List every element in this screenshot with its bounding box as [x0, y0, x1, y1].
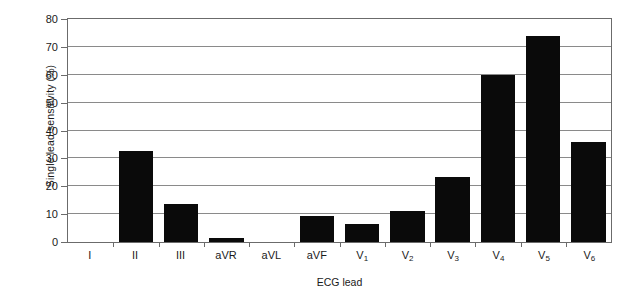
y-tick-mark — [61, 242, 68, 243]
y-tick-mark — [61, 186, 68, 187]
x-tick-mark — [340, 242, 341, 247]
x-tick-mark — [475, 242, 476, 247]
x-tick-mark — [113, 242, 114, 247]
bar-slot — [430, 19, 475, 242]
y-tick-label: 40 — [46, 125, 58, 137]
bar-V6 — [571, 142, 605, 242]
bar-slot — [249, 19, 294, 242]
bar-slot — [385, 19, 430, 242]
x-tick-mark — [159, 242, 160, 247]
bar-aVR — [209, 238, 243, 242]
x-tick-label-aVF: aVF — [294, 249, 339, 261]
x-tick-label-V1: V1 — [340, 249, 385, 261]
bar-slot — [113, 19, 158, 242]
x-axis-title: ECG lead — [67, 276, 612, 288]
x-tick-label-III: III — [158, 249, 203, 261]
y-tick-mark — [61, 19, 68, 20]
bar-slot — [68, 19, 113, 242]
x-tick-label-aVR: aVR — [203, 249, 248, 261]
bar-slot — [159, 19, 204, 242]
x-tick-mark — [566, 242, 567, 247]
x-axis-tick-labels: IIIIIIaVRaVLaVFV1V2V3V4V5V6 — [67, 249, 612, 261]
bar-chart-figure: Single lead sensitivity (%) 010203040506… — [0, 0, 625, 299]
x-tick-label-V5: V5 — [521, 249, 566, 261]
y-tick-mark — [61, 103, 68, 104]
y-tick-label: 60 — [46, 69, 58, 81]
y-tick-mark — [61, 131, 68, 132]
x-tick-mark — [204, 242, 205, 247]
y-tick-mark — [61, 75, 68, 76]
y-tick-label: 80 — [46, 13, 58, 25]
y-tick-label: 20 — [46, 180, 58, 192]
bar-V1 — [345, 224, 379, 242]
bar-slot — [294, 19, 339, 242]
y-tick-label: 0 — [52, 236, 58, 248]
x-tick-label-V4: V4 — [476, 249, 521, 261]
x-tick-label-aVL: aVL — [249, 249, 294, 261]
bar-slot — [566, 19, 611, 242]
plot-area: 01020304050607080 — [67, 18, 612, 243]
x-tick-label-II: II — [112, 249, 157, 261]
x-tick-mark — [521, 242, 522, 247]
y-tick-mark — [61, 214, 68, 215]
y-tick-label: 10 — [46, 208, 58, 220]
y-tick-label: 30 — [46, 152, 58, 164]
x-tick-label-V3: V3 — [430, 249, 475, 261]
x-tick-mark — [430, 242, 431, 247]
y-tick-mark — [61, 158, 68, 159]
x-tick-label-V2: V2 — [385, 249, 430, 261]
x-tick-mark — [385, 242, 386, 247]
y-tick-label: 70 — [46, 41, 58, 53]
bar-slot — [521, 19, 566, 242]
bar-III — [164, 204, 198, 242]
bar-slot — [340, 19, 385, 242]
bar-II — [119, 151, 153, 242]
y-tick-label: 50 — [46, 97, 58, 109]
x-tick-label-V6: V6 — [567, 249, 612, 261]
bar-V5 — [526, 36, 560, 242]
bar-slot — [204, 19, 249, 242]
bar-V4 — [481, 75, 515, 242]
bar-series — [68, 19, 611, 242]
x-tick-mark — [249, 242, 250, 247]
x-tick-label-I: I — [67, 249, 112, 261]
bar-V3 — [435, 177, 469, 243]
x-tick-mark — [294, 242, 295, 247]
y-tick-mark — [61, 47, 68, 48]
bar-aVF — [300, 216, 334, 242]
bar-V2 — [390, 211, 424, 242]
bar-slot — [475, 19, 520, 242]
